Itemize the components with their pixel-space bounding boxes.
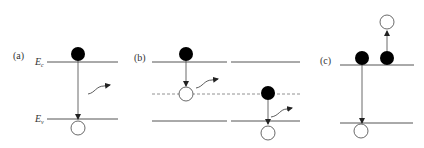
hole-icon	[354, 124, 368, 138]
hole-icon	[261, 126, 275, 140]
electron-icon	[71, 47, 85, 61]
panel-b-label: (b)	[134, 52, 146, 64]
trap-state-icon	[179, 87, 193, 101]
ec-label: Ec	[34, 56, 44, 68]
electron-icon	[261, 86, 275, 100]
panel-c: (c)	[320, 15, 414, 138]
photon-icon	[88, 85, 110, 94]
band-diagram-figure: (a) Ec Ev (b) (c)	[0, 0, 424, 148]
hole-icon	[71, 121, 85, 135]
panel-a-label: (a)	[13, 50, 24, 62]
photon-icon	[196, 79, 218, 88]
photon-icon	[271, 108, 292, 117]
electron-icon	[179, 47, 193, 61]
electron-icon	[380, 51, 394, 65]
panel-a: (a) Ec Ev	[13, 47, 118, 135]
panel-c-label: (c)	[320, 55, 331, 67]
electron-icon	[355, 51, 369, 65]
panel-b: (b)	[134, 47, 300, 140]
ev-label: Ev	[34, 113, 44, 125]
excited-state-icon	[380, 15, 394, 29]
